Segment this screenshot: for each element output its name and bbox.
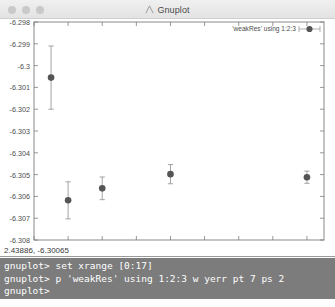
y-axis-tick-label: -6.298 [10, 19, 30, 27]
coordinate-readout-bar: 2.43886, -6.30065 [0, 246, 335, 257]
y-axis-tick-label: -6.301 [10, 83, 30, 92]
legend-point-sample [306, 26, 312, 32]
plot-canvas[interactable]: -6.298-6.299-6.3-6.301-6.302-6.303-6.304… [0, 19, 335, 255]
y-axis-tick-label: -6.299 [10, 40, 30, 49]
plot-legend: 'weakRes' using 1:2:3 [232, 25, 320, 33]
window-bottom-edge [0, 299, 335, 307]
data-series [48, 46, 310, 219]
data-point [99, 185, 106, 192]
console-line: gnuplot> p 'weakRes' using 1:2:3 w yerr … [4, 273, 335, 286]
console-prompt[interactable]: gnuplot> [4, 285, 335, 298]
mouse-coordinate-text: 2.43886, -6.30065 [4, 246, 69, 255]
gnuplot-window: Gnuplot -6.298-6.299-6.3-6.301-6.302-6.3… [0, 0, 335, 307]
y-axis-tick-label: -6.304 [10, 149, 30, 158]
y-axis-tick-label: -6.302 [10, 105, 30, 114]
y-axis-tick-label: -6.305 [10, 171, 30, 180]
window-title-group: Gnuplot [0, 0, 335, 19]
data-point [304, 174, 311, 181]
window-titlebar: Gnuplot [0, 0, 335, 19]
legend-label: 'weakRes' using 1:2:3 [232, 25, 296, 33]
y-axis-tick-label: -6.308 [10, 236, 30, 245]
gnuplot-logo-icon [145, 5, 154, 14]
y-axis-tick-label: -6.306 [10, 192, 30, 201]
data-point [48, 74, 55, 81]
y-axis-tick-label: -6.3 [18, 62, 30, 71]
gnuplot-scatter-plot: -6.298-6.299-6.3-6.301-6.302-6.303-6.304… [0, 19, 335, 255]
y-axis-tick-label: -6.303 [10, 127, 30, 136]
y-axis-tick-label: -6.307 [10, 214, 30, 223]
console-line: gnuplot> set xrange [0:17] [4, 260, 335, 273]
data-point [167, 171, 174, 178]
data-point [65, 197, 72, 204]
gnuplot-console[interactable]: gnuplot> set xrange [0:17] gnuplot> p 'w… [0, 258, 335, 299]
window-title: Gnuplot [157, 5, 189, 15]
